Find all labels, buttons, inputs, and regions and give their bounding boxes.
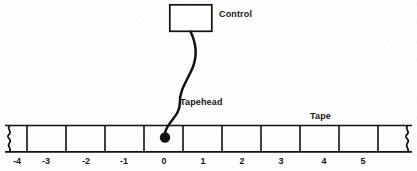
diagram-canvas [0, 0, 417, 171]
tape-torn-left-edge [8, 126, 11, 152]
tape-cell-index: 4 [321, 157, 326, 166]
tape-cell-index: 3 [278, 157, 283, 166]
tape-cell-index: -1 [120, 157, 128, 166]
tape-cell-index: 1 [200, 157, 205, 166]
tape-label: Tape [310, 112, 331, 121]
tapehead-wire [165, 32, 196, 134]
tapehead-dot [160, 132, 170, 142]
tapehead-label: Tapehead [180, 98, 223, 107]
control-label: Control [219, 10, 252, 19]
tape-cell-dividers [27, 126, 378, 152]
tape-cell-index: -2 [82, 157, 90, 166]
tape-cell-index: 2 [239, 157, 244, 166]
control-box [170, 5, 212, 32]
tape-torn-right-edge [406, 126, 409, 152]
tape-cell-index: -4 [13, 157, 21, 166]
tape-cell-index: 5 [360, 157, 365, 166]
turing-machine-diagram: Control Tapehead Tape -4-3-2-1012345 [0, 0, 417, 171]
tape-cell-index: -3 [42, 157, 50, 166]
tape-cell-index: 0 [161, 157, 166, 166]
